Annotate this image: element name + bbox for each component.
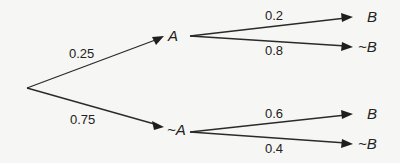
prob-label-A: 0.25 (69, 46, 94, 61)
arrowhead-icon (341, 110, 353, 119)
arrowhead-icon (152, 36, 164, 45)
prob-label-notA-B: 0.6 (265, 106, 283, 121)
arrowhead-icon (341, 139, 353, 148)
probability-tree: 0.25 0.75 0.2 0.8 0.6 0.4 A ~A B ~B B ~B (0, 0, 400, 163)
prob-label-notA-notB: 0.4 (265, 141, 283, 156)
node-A-B: B (367, 8, 377, 25)
edge-root-notA (27, 88, 164, 130)
node-A-notB: ~B (358, 38, 377, 55)
edge-root-A (27, 36, 164, 88)
prob-label-notA: 0.75 (70, 112, 95, 127)
node-notA-notB: ~B (358, 135, 377, 152)
node-notA-B: B (367, 105, 377, 122)
arrowhead-icon (341, 13, 353, 22)
tree-canvas: 0.25 0.75 0.2 0.8 0.6 0.4 A ~A B ~B B ~B (0, 0, 400, 163)
prob-label-A-notB: 0.8 (265, 43, 283, 58)
arrowhead-icon (152, 121, 164, 130)
prob-label-A-B: 0.2 (265, 8, 283, 23)
node-A: A (167, 27, 178, 44)
node-notA: ~A (167, 121, 186, 138)
arrowhead-icon (341, 42, 353, 51)
